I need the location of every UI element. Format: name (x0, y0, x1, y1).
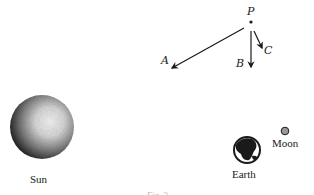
diagram-canvas: P A B C Sun Earth Moon Fig. 3 (0, 0, 314, 195)
sun: Sun (10, 95, 74, 185)
earth: Earth (232, 137, 260, 180)
arrow-a-icon (172, 28, 244, 68)
point-p-label: P (246, 5, 255, 18)
figure-caption: Fig. 3 (147, 190, 169, 195)
moon: Moon (272, 127, 299, 149)
vector-c-label: C (264, 44, 273, 57)
moon-label: Moon (272, 137, 299, 149)
point-p: P (246, 5, 255, 24)
vector-c: C (254, 31, 273, 57)
moon-icon (281, 127, 289, 135)
sun-icon (10, 95, 74, 159)
sun-label: Sun (30, 173, 48, 185)
earth-label: Earth (232, 168, 256, 180)
arrow-c-icon (254, 31, 262, 48)
vector-a-label: A (160, 54, 169, 67)
vector-a: A (160, 28, 244, 68)
vector-b: B (235, 31, 251, 70)
vector-b-label: B (235, 57, 244, 70)
point-p-dot (249, 20, 252, 23)
